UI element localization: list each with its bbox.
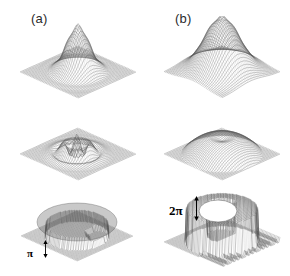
surface-panel-a-row2	[12, 108, 144, 182]
surface-mesh-a-row2	[12, 108, 144, 182]
pi-scale-label: π	[27, 247, 33, 259]
two-pi-scale-label: 2π	[169, 203, 183, 219]
surface-mesh-b-row3	[154, 186, 290, 276]
surface-panel-a-row1	[12, 22, 144, 100]
surface-mesh-b-row1	[156, 16, 288, 100]
surface-mesh-b-row2	[156, 108, 288, 182]
surface-panel-b-row3	[154, 186, 290, 276]
pi-scale-arrow	[41, 240, 50, 262]
surface-mesh-a-row3	[10, 190, 144, 274]
figure-canvas: (a) (b) π	[0, 0, 290, 276]
surface-panel-b-row1	[156, 16, 288, 100]
surface-panel-a-row3	[10, 190, 144, 274]
surface-panel-b-row2	[156, 108, 288, 182]
surface-mesh-a-row1	[12, 22, 144, 100]
two-pi-scale-arrow	[192, 196, 201, 225]
